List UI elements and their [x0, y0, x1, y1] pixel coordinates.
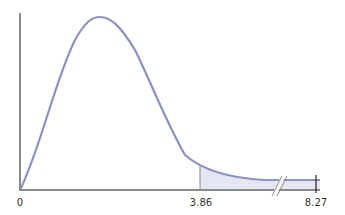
x-tick-statistic: 8.27 [305, 197, 327, 208]
density-chart [0, 0, 345, 215]
density-curve [20, 17, 320, 190]
x-tick-critical: 3.86 [190, 197, 212, 208]
shaded-tail-region [200, 166, 320, 190]
x-tick-0: 0 [17, 197, 23, 208]
